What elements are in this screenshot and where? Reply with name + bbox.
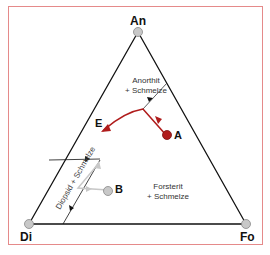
path-a	[103, 109, 166, 135]
field-label-anorthit: Anorthit + Schmelze	[116, 76, 176, 96]
arrow-head-icon	[86, 186, 92, 192]
arrow-head-icon	[94, 161, 101, 169]
field-anorthit-line2: + Schmelze	[116, 86, 176, 96]
field-anorthit-line1: Anorthit	[116, 76, 176, 86]
vertex-an-marker	[134, 28, 143, 37]
cotectic-di-an	[49, 159, 100, 160]
vertex-label-di: Di	[20, 230, 32, 244]
field-label-forsterit: Forsterit + Schmelze	[138, 182, 198, 202]
field-forsterit-line1: Forsterit	[138, 182, 198, 192]
field-forsterit-line2: + Schmelze	[138, 192, 198, 202]
point-label-a: A	[174, 129, 182, 141]
ternary-diagram: Diopsid + Schmelze	[0, 0, 270, 255]
vertex-di-marker	[25, 220, 34, 229]
point-a-marker	[163, 131, 172, 140]
point-label-e: E	[95, 117, 102, 129]
vertex-label-fo: Fo	[240, 230, 255, 244]
point-label-b: B	[115, 183, 123, 195]
field-label-diopsid: Diopsid + Schmelze	[54, 145, 98, 211]
vertex-fo-marker	[242, 220, 251, 229]
point-b-marker	[104, 187, 113, 196]
vertex-label-an: An	[130, 14, 146, 28]
